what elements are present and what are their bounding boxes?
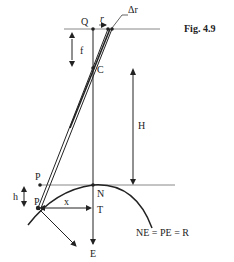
label-c: C: [97, 64, 104, 75]
label-n: N: [97, 188, 104, 199]
point-delta-r-1: [106, 27, 110, 31]
label-h: h: [13, 191, 18, 202]
geometry-diagram: Q r Δr f C H P P h N x T E Fig. 4.9 NE =…: [0, 0, 234, 262]
label-f: f: [80, 45, 84, 56]
delta-r-leader: [112, 15, 122, 28]
line-through-c: [70, 29, 110, 128]
label-delta-r: Δr: [128, 4, 138, 15]
label-x: x: [64, 196, 69, 207]
point-q: [91, 27, 95, 31]
label-r: r: [100, 13, 104, 24]
label-q: Q: [81, 16, 89, 27]
earth-surface-arc: [28, 185, 152, 228]
label-t: T: [97, 204, 103, 215]
point-n: [91, 183, 95, 187]
label-p-lower: P: [34, 196, 40, 207]
label-h-upper: H: [138, 120, 145, 131]
figure-caption: Fig. 4.9: [184, 23, 215, 34]
equation-text: NE = PE = R: [136, 227, 189, 238]
point-c: [91, 66, 95, 70]
label-e: E: [90, 248, 96, 259]
label-p-upper: P: [35, 171, 41, 182]
p-radial-arrow: [38, 208, 76, 246]
sight-line-2: [41, 29, 112, 208]
point-p-upper: [38, 183, 42, 187]
